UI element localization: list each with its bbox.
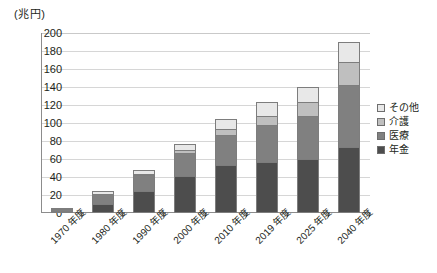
- legend-label: 介護: [389, 117, 409, 127]
- bar-segment-介護: [215, 129, 237, 136]
- bar-segment-年金: [297, 159, 319, 213]
- legend-swatch-icon: [377, 118, 385, 126]
- bar-segment-年金: [133, 191, 155, 213]
- legend-swatch-icon: [377, 132, 385, 140]
- stacked-bar[interactable]: [256, 102, 278, 213]
- stacked-bar[interactable]: [215, 119, 237, 213]
- bar-segment-医療: [338, 85, 360, 147]
- bar-slot: [123, 33, 164, 213]
- bar-segment-介護: [297, 102, 319, 116]
- legend-swatch-icon: [377, 104, 385, 112]
- stacked-bar[interactable]: [297, 87, 319, 213]
- x-label-slot: 2019 年度: [247, 218, 288, 273]
- legend-item-年金[interactable]: 年金: [377, 145, 419, 155]
- stacked-bar[interactable]: [174, 144, 196, 213]
- bar-segment-年金: [338, 147, 360, 213]
- x-label-slot: 1990 年度: [123, 218, 164, 273]
- bar-slot: [164, 33, 205, 213]
- legend-item-介護[interactable]: 介護: [377, 117, 419, 127]
- bar-segment-その他: [215, 119, 237, 129]
- bar-segment-介護: [338, 62, 360, 85]
- bar-segment-年金: [215, 165, 237, 213]
- bar-segment-その他: [338, 42, 360, 62]
- stacked-bar[interactable]: [338, 42, 360, 213]
- x-axis-category-labels: 1970 年度1980 年度1990 年度2000 年度2010 年度2019 …: [41, 218, 370, 273]
- x-label-slot: 2010 年度: [206, 218, 247, 273]
- bar-slot: [247, 33, 288, 213]
- bar-series-layer: [41, 33, 370, 213]
- stacked-bar[interactable]: [133, 170, 155, 213]
- bar-segment-年金: [174, 176, 196, 213]
- stacked-bar[interactable]: [92, 191, 114, 213]
- stacked-bar-chart: (兆円) 200180160140120100806040200 1970 年度…: [0, 0, 437, 273]
- chart-legend: その他介護医療年金: [377, 103, 419, 155]
- bar-slot: [82, 33, 123, 213]
- legend-swatch-icon: [377, 146, 385, 154]
- bar-segment-医療: [174, 153, 196, 176]
- bar-slot: [41, 33, 82, 213]
- legend-label: 医療: [389, 131, 409, 141]
- bar-segment-医療: [215, 135, 237, 165]
- bar-segment-医療: [92, 194, 114, 204]
- bar-segment-医療: [297, 116, 319, 159]
- bar-segment-介護: [256, 116, 278, 126]
- x-label-slot: 1970 年度: [41, 218, 82, 273]
- x-label-slot: 2040 年度: [329, 218, 370, 273]
- x-label-slot: 1980 年度: [82, 218, 123, 273]
- bar-segment-その他: [256, 102, 278, 116]
- legend-item-その他[interactable]: その他: [377, 103, 419, 113]
- legend-label: その他: [389, 103, 419, 113]
- bar-segment-その他: [297, 87, 319, 102]
- legend-label: 年金: [389, 145, 409, 155]
- bar-segment-医療: [256, 125, 278, 162]
- bar-slot: [288, 33, 329, 213]
- bar-segment-医療: [133, 175, 155, 192]
- legend-item-医療[interactable]: 医療: [377, 131, 419, 141]
- y-axis-unit-caption: (兆円): [14, 5, 45, 21]
- bar-slot: [329, 33, 370, 213]
- bar-slot: [206, 33, 247, 213]
- x-label-slot: 2025 年度: [288, 218, 329, 273]
- x-label-slot: 2000 年度: [164, 218, 205, 273]
- bar-segment-年金: [256, 162, 278, 213]
